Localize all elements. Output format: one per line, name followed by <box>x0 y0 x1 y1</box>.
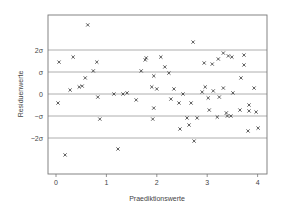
x-marker-icon <box>191 40 194 43</box>
x-marker-icon <box>78 85 81 88</box>
x-marker-icon <box>95 61 98 64</box>
x-marker-icon <box>218 95 221 98</box>
x-marker-icon <box>135 98 138 101</box>
x-marker-icon <box>98 117 101 120</box>
x-marker-icon <box>227 54 230 57</box>
x-marker-icon <box>187 123 190 126</box>
x-marker-icon <box>63 153 66 156</box>
x-marker-icon <box>239 76 242 79</box>
x-marker-icon <box>246 129 249 132</box>
x-marker-icon <box>242 63 245 66</box>
x-marker-icon <box>189 101 192 104</box>
x-marker-icon <box>217 57 220 60</box>
x-marker-icon <box>150 85 153 88</box>
x-marker-icon <box>203 61 206 64</box>
x-marker-icon <box>151 117 154 120</box>
x-marker-icon <box>222 51 225 54</box>
x-marker-icon <box>84 76 87 79</box>
x-marker-icon <box>86 23 89 26</box>
y-axis: 2σσ0−σ−2σ <box>31 47 44 142</box>
x-marker-icon <box>163 65 166 68</box>
x-marker-icon <box>72 55 75 58</box>
y-tick-label: −σ <box>35 113 44 120</box>
x-marker-icon <box>211 62 214 65</box>
x-marker-icon <box>222 86 225 89</box>
x-marker-icon <box>155 87 158 90</box>
x-marker-icon <box>172 87 175 90</box>
y-tick-label: σ <box>39 69 44 76</box>
x-tick-label: 0 <box>54 179 58 186</box>
x-marker-icon <box>247 103 250 106</box>
x-tick-label: 3 <box>205 179 209 186</box>
x-marker-icon <box>207 96 210 99</box>
x-marker-icon <box>192 139 195 142</box>
x-marker-icon <box>57 61 60 64</box>
x-tick-label: 1 <box>104 179 108 186</box>
scatter-chart: 01234 2σσ0−σ−2σ Praediktionswerte Residu… <box>0 0 281 207</box>
x-marker-icon <box>116 147 119 150</box>
x-marker-icon <box>152 106 155 109</box>
x-marker-icon <box>177 101 180 104</box>
y-tick-label: 2σ <box>35 47 44 54</box>
x-marker-icon <box>178 127 181 130</box>
x-marker-icon <box>204 85 207 88</box>
x-marker-icon <box>212 89 215 92</box>
x-marker-icon <box>196 116 199 119</box>
x-marker-icon <box>96 95 99 98</box>
x-marker-icon <box>208 108 211 111</box>
x-tick-label: 4 <box>256 179 260 186</box>
x-tick-label: 2 <box>155 179 159 186</box>
x-marker-icon <box>69 88 72 91</box>
x-marker-icon <box>81 84 84 87</box>
x-marker-icon <box>257 127 260 130</box>
data-points <box>56 23 259 156</box>
x-marker-icon <box>254 110 257 113</box>
x-marker-icon <box>238 108 241 111</box>
x-axis: 01234 <box>54 174 260 186</box>
y-axis-title: Residuenwerte <box>17 71 24 118</box>
x-marker-icon <box>247 109 250 112</box>
x-marker-icon <box>56 101 59 104</box>
x-marker-icon <box>159 55 162 58</box>
x-marker-icon <box>225 111 228 114</box>
y-tick-label: −2σ <box>31 135 44 142</box>
y-tick-label: 0 <box>39 91 43 98</box>
x-marker-icon <box>152 74 155 77</box>
x-axis-title: Praediktionswerte <box>129 195 185 202</box>
x-marker-icon <box>185 116 188 119</box>
x-marker-icon <box>242 53 245 56</box>
x-marker-icon <box>252 86 255 89</box>
x-marker-icon <box>230 55 233 58</box>
x-marker-icon <box>201 90 204 93</box>
x-marker-icon <box>169 97 172 100</box>
